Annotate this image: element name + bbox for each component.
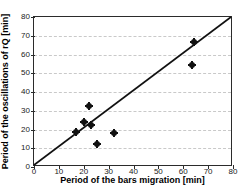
data-point — [81, 119, 87, 125]
data-point — [111, 130, 117, 136]
data-point — [88, 122, 94, 128]
one-to-one-reference-line — [34, 17, 231, 165]
plot-area: 01020304050607080 01020304050607080 — [33, 16, 232, 166]
data-point — [189, 62, 195, 68]
y-tick-label: 0 — [26, 163, 30, 171]
y-tick-label: 60 — [21, 51, 30, 59]
y-axis-title-label: Period of the oscillations of rQ [min] — [2, 13, 11, 169]
y-tick-label: 10 — [21, 144, 30, 152]
y-tick-label: 70 — [21, 32, 30, 40]
y-tick-label: 40 — [21, 88, 30, 96]
y-tick-label: 50 — [21, 69, 30, 77]
x-tick-label: 80 — [229, 168, 238, 176]
y-tick-label: 80 — [21, 13, 30, 21]
x-axis-title: Period of the bars migration [min] — [33, 176, 232, 185]
y-axis-title: Period of the oscillations of rQ [min] — [0, 16, 12, 166]
y-tick-label: 20 — [21, 126, 30, 134]
y-tick-label: 30 — [21, 107, 30, 115]
scatter-chart-figure: Period of the oscillations of rQ [min] 0… — [0, 0, 248, 192]
x-tick-label: 70 — [204, 168, 213, 176]
x-tick-label: 0 — [32, 168, 36, 176]
